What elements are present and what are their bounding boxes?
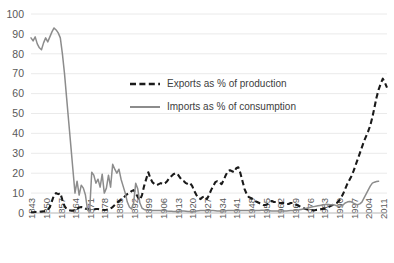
x-axis-tick-label: 1927 [202, 198, 213, 219]
x-axis-tick-label: 1962 [275, 198, 286, 219]
x-axis-tick-label: 1920 [187, 198, 198, 219]
x-axis-tick-label: 1899 [143, 198, 154, 219]
x-axis-tick-label: 1878 [99, 198, 110, 219]
legend-label: Imports as % of consumption [167, 101, 296, 112]
x-axis-tick-label: 1913 [173, 198, 184, 219]
x-axis-tick-labels: 1843185018571864187118781885189218991906… [26, 198, 389, 219]
x-axis-tick-label: 1843 [26, 198, 37, 219]
y-axis-tick-label: 80 [12, 48, 24, 60]
line-chart: 0102030405060708090100 18431850185718641… [0, 0, 394, 263]
chart-container: 0102030405060708090100 18431850185718641… [0, 0, 394, 263]
y-axis-tick-label: 10 [12, 187, 24, 199]
x-axis-tick-label: 2011 [378, 199, 389, 219]
x-axis-tick-label: 1857 [56, 198, 67, 219]
x-axis-tick-label: 1969 [290, 198, 301, 219]
y-axis-tick-label: 60 [12, 87, 24, 99]
data-series-group [31, 28, 387, 212]
y-axis-tick-label: 30 [12, 147, 24, 159]
y-axis-tick-label: 40 [12, 127, 24, 139]
chart-legend: Exports as % of productionImports as % o… [130, 78, 296, 112]
gridlines-group [31, 14, 387, 213]
series-line-imports [31, 28, 379, 211]
y-axis-tick-labels: 0102030405060708090100 [6, 8, 24, 219]
y-axis-tick-label: 100 [6, 8, 24, 20]
y-axis-tick-label: 50 [12, 107, 24, 119]
y-axis-tick-label: 70 [12, 67, 24, 79]
x-axis-tick-label: 1850 [41, 198, 52, 219]
y-axis-tick-label: 90 [12, 28, 24, 40]
x-axis-tick-label: 1955 [261, 198, 272, 219]
y-axis-tick-label: 20 [12, 167, 24, 179]
x-axis-tick-label: 2004 [363, 198, 374, 219]
x-axis-tick-label: 1906 [158, 198, 169, 219]
x-axis-tick-label: 1934 [217, 198, 228, 219]
x-axis-tick-label: 1941 [231, 198, 242, 219]
y-axis-tick-label: 0 [18, 207, 24, 219]
legend-label: Exports as % of production [167, 78, 287, 89]
